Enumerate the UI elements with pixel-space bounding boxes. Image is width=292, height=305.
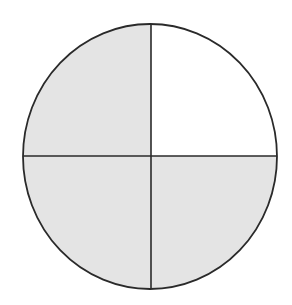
quadrant-bottom-left (0, 156, 151, 305)
fraction-circle-diagram (0, 0, 292, 305)
circle-divided-into-quarters (0, 0, 292, 305)
quadrant-bottom-right (151, 156, 292, 305)
quadrant-top-right (151, 0, 292, 156)
quadrant-top-left (0, 0, 151, 156)
